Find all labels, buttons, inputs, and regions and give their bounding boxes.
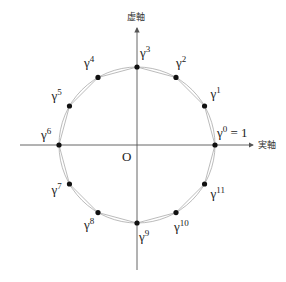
gamma-8-point (95, 210, 100, 215)
gamma-0-label: γ0 = 1 (216, 124, 248, 140)
gamma-11-label: γ11 (210, 185, 225, 201)
origin-label: O (122, 149, 131, 164)
gamma-10-label: γ10 (173, 218, 189, 234)
gamma-4-point (95, 75, 100, 80)
gamma-8-label: γ8 (83, 216, 95, 232)
gamma-7-point (67, 181, 72, 186)
imaginary-axis-label: 虚軸 (127, 11, 145, 22)
gamma-2-point (173, 75, 178, 80)
gamma-6-label: γ6 (40, 126, 52, 142)
gamma-1-point (202, 103, 207, 108)
gamma-6-point (56, 142, 61, 147)
gamma-9-point (134, 220, 139, 225)
unit-circle-diagram: 虚軸 実軸 O γ0 = 1γ1γ2γ3γ4γ5γ6γ7γ8γ9γ10γ11 (0, 0, 286, 282)
gamma-7-label: γ7 (50, 181, 62, 197)
gamma-10-point (173, 210, 178, 215)
gamma-4-label: γ4 (83, 54, 95, 70)
gamma-1-label: γ1 (210, 85, 221, 101)
gamma-3-label: γ3 (139, 44, 151, 60)
gamma-3-point (134, 64, 139, 69)
gamma-5-label: γ5 (50, 87, 62, 103)
gamma-9-label: γ9 (138, 228, 150, 244)
gamma-11-point (202, 181, 207, 186)
gamma-5-point (67, 103, 72, 108)
gamma-2-label: γ2 (175, 54, 186, 70)
gamma-0-point (212, 142, 217, 147)
real-axis-label: 実軸 (258, 139, 276, 150)
